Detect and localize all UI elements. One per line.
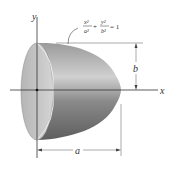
- x-axis-label: x: [159, 85, 165, 96]
- equation-x-denominator: a²: [84, 28, 89, 34]
- equation-y-denominator: b²: [101, 28, 106, 34]
- a-arrow-right: [116, 149, 121, 152]
- equation-y-numerator: y²: [100, 19, 106, 25]
- a-dimension-label: a: [75, 145, 80, 156]
- b-arrow-top: [135, 43, 138, 48]
- equation-plus: +: [93, 23, 97, 31]
- a-arrow-left: [37, 149, 42, 152]
- y-axis-label: y: [31, 11, 37, 22]
- equation-rhs: = 1: [110, 23, 120, 31]
- equation-x-numerator: x²: [83, 19, 89, 25]
- b-dimension-label: b: [133, 63, 138, 74]
- b-arrow-bottom: [135, 85, 138, 90]
- equation-leader-line: [68, 28, 78, 44]
- origin-point: [36, 89, 39, 92]
- paraboloid-diagram: y x x² a² + y² b² = 1 b a: [0, 0, 178, 177]
- equation: x² a² + y² b² = 1: [83, 19, 120, 34]
